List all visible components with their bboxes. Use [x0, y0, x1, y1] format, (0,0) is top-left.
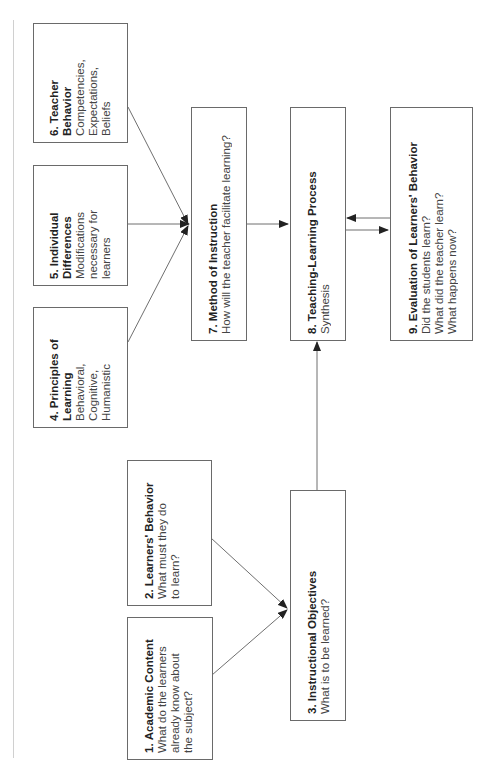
node-4-desc-3: Humanistic — [100, 316, 113, 421]
node-1-desc-2: already know about — [169, 626, 182, 753]
node-6-title-cont: Behavior — [61, 32, 74, 136]
node-7-title: 7. Method of Instruction — [207, 116, 220, 334]
node-1-title: 1. Academic Content — [143, 626, 156, 753]
node-4-desc-1: Behavioral, — [74, 316, 87, 421]
edge-6-to-7 — [128, 107, 188, 224]
node-evaluation-of-learners-behavior: 9. Evaluation of Learners' Behavior Did … — [390, 107, 473, 341]
node-2-title: 2. Learners' Behavior — [143, 469, 156, 599]
node-4-title: 4. Principles of — [48, 316, 61, 421]
node-1-desc-3: the subject? — [182, 626, 195, 753]
node-learners-behavior: 2. Learners' Behavior What must they do … — [127, 460, 212, 606]
node-5-desc-3: learners — [100, 174, 113, 279]
node-9-desc-3: What happens now? — [446, 116, 459, 334]
node-teaching-learning-process: 8. Teaching-Learning Process Synthesis — [290, 107, 346, 341]
node-1-desc-1: What do the learners — [156, 626, 169, 753]
node-8-desc-1: Synthesis — [319, 116, 332, 334]
node-9-desc-2: What did the teacher learn? — [433, 116, 446, 334]
edge-2-to-3 — [211, 538, 287, 608]
node-academic-content: 1. Academic Content What do the learners… — [127, 617, 213, 760]
node-5-title: 5. Individual — [48, 174, 61, 279]
node-5-desc-1: Modifications — [74, 174, 87, 279]
node-2-desc-1: What must they do — [156, 469, 169, 599]
edge-4-to-7 — [128, 226, 188, 342]
node-5-desc-2: necessary for — [87, 174, 100, 279]
node-4-desc-2: Cognitive, — [87, 316, 100, 421]
node-5-title-cont: Differences — [61, 174, 74, 279]
node-9-title: 9. Evaluation of Learners' Behavior — [407, 116, 420, 334]
node-instructional-objectives: 3. Instructional Objectives What is to b… — [290, 490, 346, 721]
node-9-desc-1: Did the students learn? — [420, 116, 433, 334]
node-principles-of-learning: 4. Principles of Learning Behavioral, Co… — [33, 307, 128, 428]
node-6-desc-2: Expectations, — [87, 32, 100, 136]
node-3-desc-1: What is to be learned? — [319, 499, 332, 714]
node-7-desc-1: How will the teacher facilitate learning… — [220, 116, 233, 334]
node-6-desc-1: Competencies, — [74, 32, 87, 136]
node-3-title: 3. Instructional Objectives — [306, 499, 319, 714]
node-6-desc-3: Beliefs — [100, 32, 113, 136]
node-individual-differences: 5. Individual Differences Modifications … — [33, 165, 128, 286]
edge-1-to-3 — [212, 610, 287, 675]
node-4-title-cont: Learning — [61, 316, 74, 421]
node-method-of-instruction: 7. Method of Instruction How will the te… — [191, 107, 247, 341]
node-8-title: 8. Teaching-Learning Process — [306, 116, 319, 334]
node-teacher-behavior: 6. Teacher Behavior Competencies, Expect… — [33, 23, 128, 143]
flow-diagram: 6. Teacher Behavior Competencies, Expect… — [0, 0, 486, 771]
node-2-desc-2: to learn? — [169, 469, 182, 599]
node-6-title: 6. Teacher — [48, 32, 61, 136]
